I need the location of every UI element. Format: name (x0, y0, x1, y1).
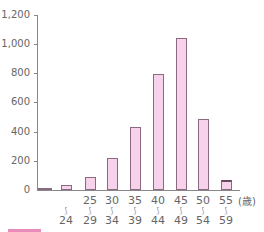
y-tick-600: 600 (0, 97, 30, 107)
x-label-bottom: 54 (192, 215, 214, 226)
x-label-bottom: 59 (215, 215, 237, 226)
x-label-top: 25 (79, 195, 101, 206)
bar-7 (198, 119, 209, 190)
x-label-top: 45 (170, 195, 192, 206)
x-label-top: 40 (147, 195, 169, 206)
bar-chart: 1,200 1,000 800 600 400 200 0 ⟆2425⟆2930… (0, 0, 264, 232)
x-label-bottom: 49 (170, 215, 192, 226)
bar-5 (153, 74, 164, 190)
bar-8 (221, 180, 232, 190)
y-axis (37, 15, 38, 190)
bar-1 (61, 185, 72, 190)
bar-2 (85, 177, 96, 190)
y-tick-200: 200 (0, 156, 30, 166)
bar-3 (107, 158, 118, 190)
bar-6 (176, 38, 187, 190)
unit-label: (歳) (238, 193, 256, 208)
x-label-top: 30 (101, 195, 123, 206)
x-label-bottom: 29 (79, 215, 101, 226)
y-tick-0: 0 (0, 185, 30, 195)
y-tick-800: 800 (0, 68, 30, 78)
x-label-top: 55 (215, 195, 237, 206)
x-label-bottom: 34 (101, 215, 123, 226)
x-label-bottom: 39 (124, 215, 146, 226)
x-label-bottom: 24 (55, 215, 77, 226)
x-label-top: 50 (192, 195, 214, 206)
y-tick-400: 400 (0, 127, 30, 137)
bar-4 (130, 127, 141, 190)
x-axis (37, 190, 240, 191)
bar-0 (38, 188, 52, 190)
x-label-bottom: 44 (147, 215, 169, 226)
legend-swatch (8, 229, 41, 232)
y-tick-1200: 1,200 (0, 10, 30, 20)
y-tick-1000: 1,000 (0, 39, 30, 49)
x-label-top: 35 (124, 195, 146, 206)
